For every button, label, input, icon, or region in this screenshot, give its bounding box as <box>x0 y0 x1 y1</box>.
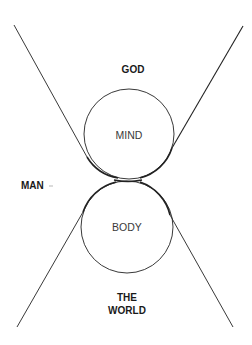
upper-right-tangent-arc <box>140 148 172 178</box>
body-label: BODY <box>112 221 142 233</box>
god-label: GOD <box>122 64 145 76</box>
upper-left-tangent-arc <box>87 157 118 178</box>
man-label: MAN <box>21 180 44 192</box>
lower-right-tangent-arc <box>140 182 170 215</box>
mind-label: MIND <box>116 129 143 141</box>
lower-right-line <box>170 215 233 327</box>
man-between-god-and-world-diagram: GOD MIND MAN BODY THE WORLD <box>0 0 252 345</box>
upper-left-line <box>14 25 87 157</box>
world-label-line1: THE <box>117 292 137 304</box>
lower-left-line <box>17 212 83 327</box>
world-label-line2: WORLD <box>108 305 146 317</box>
lower-left-tangent-arc <box>83 182 116 212</box>
upper-right-line <box>172 26 243 148</box>
